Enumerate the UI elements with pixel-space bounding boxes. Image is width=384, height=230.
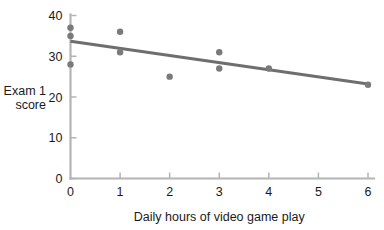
scatter-point (216, 65, 222, 71)
scatter-point (266, 65, 272, 71)
scatter-point (365, 82, 371, 88)
y-axis-title-line1: Exam 1 (4, 84, 46, 98)
scatter-point (67, 33, 73, 39)
scatter-point (67, 25, 73, 31)
y-axis-tick-labels: 010203040 (49, 9, 63, 186)
scatter-point (117, 49, 123, 55)
y-axis-title-line2: score (15, 98, 46, 112)
y-tick-label: 10 (49, 131, 63, 145)
plot-canvas: 010203040 0123456 Exam 1 score Daily hou… (0, 0, 384, 230)
x-tick-label: 1 (117, 185, 124, 199)
x-tick-label: 2 (166, 185, 173, 199)
y-tick-label: 30 (49, 50, 63, 64)
scatter-point (166, 73, 172, 79)
y-tick-label: 0 (56, 172, 63, 186)
scatter-point (216, 49, 222, 55)
regression-trend-line (71, 41, 369, 84)
x-tick-label: 5 (315, 185, 322, 199)
x-tick-label: 4 (265, 185, 272, 199)
x-tick-label: 6 (365, 185, 372, 199)
x-axis-title: Daily hours of video game play (134, 210, 306, 224)
x-axis-tick-labels: 0123456 (67, 185, 372, 199)
x-tick-label: 0 (67, 185, 74, 199)
scatter-point (117, 29, 123, 35)
scatter-point (67, 61, 73, 67)
y-tick-label: 20 (49, 91, 63, 105)
scatterplot-figure: 010203040 0123456 Exam 1 score Daily hou… (0, 0, 384, 230)
x-tick-label: 3 (216, 185, 223, 199)
y-tick-label: 40 (49, 9, 63, 23)
